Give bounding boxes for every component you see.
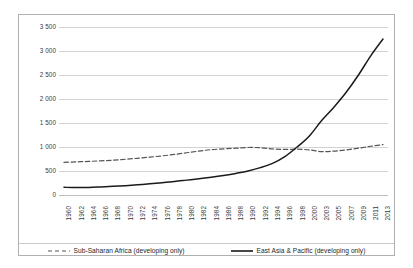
series-line (64, 145, 383, 163)
x-tick-label: 1998 (300, 206, 306, 220)
x-tick-label: 1982 (201, 206, 207, 220)
chart-figure: 05001 0001 5002 0002 5003 0003 500 19601… (18, 14, 395, 256)
x-tick-label: 1968 (115, 206, 121, 220)
x-tick-label: 1964 (91, 206, 97, 220)
x-tick-label: 1988 (238, 206, 244, 220)
series-line (64, 39, 383, 188)
y-tick-label: 0 (52, 192, 56, 198)
y-tick-label: 1 500 (40, 120, 56, 126)
legend-label: Sub-Saharan Africa (developing only) (74, 247, 185, 254)
x-tick-label: 1986 (226, 206, 232, 220)
y-axis: 05001 0001 5002 0002 5003 0003 500 (19, 15, 59, 205)
x-tick-label: 2007 (349, 206, 355, 220)
plot-canvas (59, 15, 388, 205)
legend-label: East Asia & Pacific (developing only) (257, 247, 366, 254)
x-tick-label: 1994 (275, 206, 281, 220)
x-tick-label: 1990 (250, 206, 256, 220)
x-tick-label: 2011 (373, 206, 379, 220)
x-tick-label: 2009 (361, 206, 367, 220)
x-tick-label: 1992 (263, 206, 269, 220)
y-tick-label: 3 500 (40, 24, 56, 30)
plot-area: 05001 0001 5002 0002 5003 0003 500 (19, 15, 396, 205)
solid-line-icon (231, 249, 253, 253)
x-tick-label: 1978 (177, 206, 183, 220)
x-tick-label: 2000 (312, 206, 318, 220)
x-tick-label: 1962 (79, 206, 85, 220)
legend-item[interactable]: East Asia & Pacific (developing only) (231, 247, 366, 254)
x-tick-label: 1972 (140, 206, 146, 220)
x-tick-label: 1966 (103, 206, 109, 220)
x-tick-label: 1974 (152, 206, 158, 220)
x-tick-label: 2005 (336, 206, 342, 220)
x-tick-label: 1960 (66, 206, 72, 220)
y-tick-label: 1 000 (40, 144, 56, 150)
x-tick-label: 1984 (214, 206, 220, 220)
x-tick-label: 1996 (287, 206, 293, 220)
legend-item[interactable]: Sub-Saharan Africa (developing only) (48, 247, 185, 254)
dashed-line-icon (48, 249, 70, 253)
x-tick-label: 2003 (324, 206, 330, 220)
x-tick-label: 1970 (128, 206, 134, 220)
x-tick-label: 1976 (165, 206, 171, 220)
y-tick-label: 3 000 (40, 48, 56, 54)
x-tick-label: 1980 (189, 206, 195, 220)
y-tick-label: 500 (45, 168, 56, 174)
x-tick-label: 2013 (385, 206, 391, 220)
x-axis: 1960196219641966196819701972197419761978… (59, 205, 386, 243)
y-tick-label: 2 000 (40, 96, 56, 102)
y-tick-label: 2 500 (40, 72, 56, 78)
chart-legend: Sub-Saharan Africa (developing only)East… (19, 243, 394, 257)
series-layer (59, 15, 388, 205)
